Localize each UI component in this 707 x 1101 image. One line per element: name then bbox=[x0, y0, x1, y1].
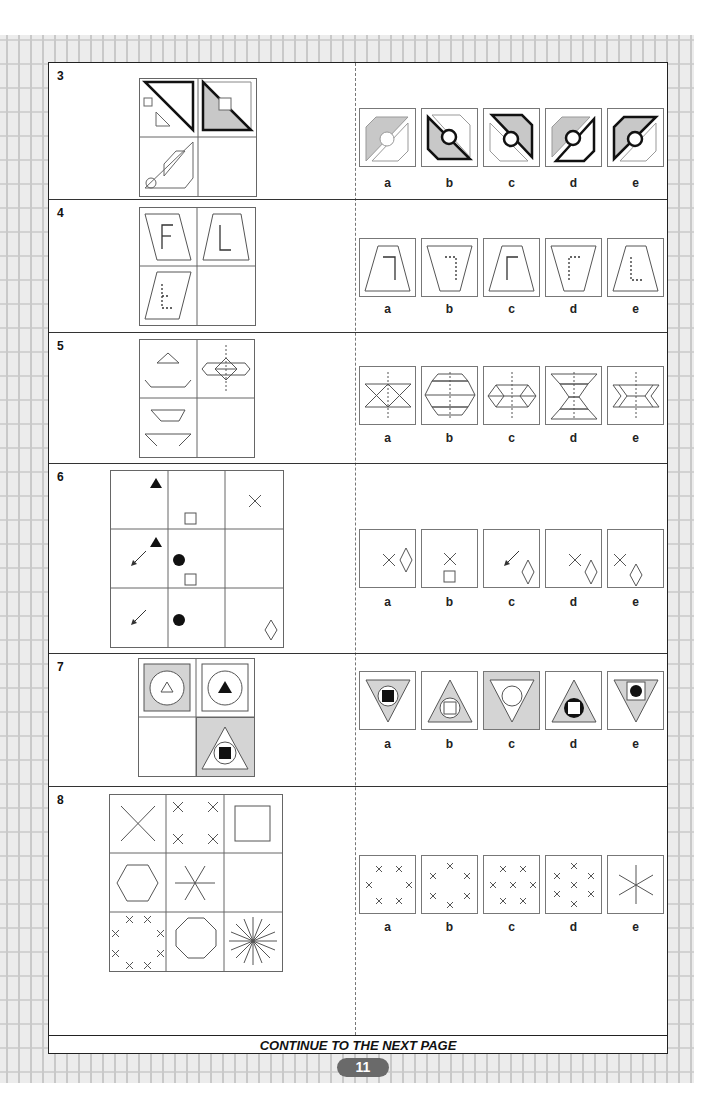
question-number: 4 bbox=[57, 206, 64, 220]
option-c[interactable] bbox=[483, 366, 540, 425]
option-a[interactable] bbox=[359, 671, 416, 730]
option-label: b bbox=[421, 737, 478, 751]
option-a[interactable] bbox=[359, 366, 416, 425]
question-matrix bbox=[139, 339, 255, 458]
question-matrix bbox=[110, 470, 284, 648]
option-label: a bbox=[359, 737, 416, 751]
option-b[interactable] bbox=[421, 855, 478, 914]
option-b[interactable] bbox=[421, 366, 478, 425]
option-label: b bbox=[421, 431, 478, 445]
option-b[interactable] bbox=[421, 671, 478, 730]
option-label: c bbox=[483, 431, 540, 445]
option-d[interactable] bbox=[545, 108, 602, 167]
option-d[interactable] bbox=[545, 238, 602, 297]
question-matrix bbox=[138, 658, 255, 777]
option-label: d bbox=[545, 302, 602, 316]
option-label: c bbox=[483, 176, 540, 190]
option-label: e bbox=[607, 737, 664, 751]
option-a[interactable] bbox=[359, 529, 416, 588]
option-label: e bbox=[607, 176, 664, 190]
option-c[interactable] bbox=[483, 855, 540, 914]
option-label: a bbox=[359, 176, 416, 190]
option-d[interactable] bbox=[545, 529, 602, 588]
option-b[interactable] bbox=[421, 238, 478, 297]
option-d[interactable] bbox=[545, 855, 602, 914]
option-label: e bbox=[607, 302, 664, 316]
question-6: 6 bbox=[49, 464, 667, 654]
question-5: 5 a b c bbox=[49, 333, 667, 464]
question-matrix bbox=[139, 78, 257, 197]
option-a[interactable] bbox=[359, 855, 416, 914]
option-c[interactable] bbox=[483, 529, 540, 588]
option-c[interactable] bbox=[483, 108, 540, 167]
option-label: e bbox=[607, 920, 664, 934]
option-e[interactable] bbox=[607, 108, 664, 167]
option-label: c bbox=[483, 595, 540, 609]
option-a[interactable] bbox=[359, 238, 416, 297]
option-label: a bbox=[359, 595, 416, 609]
question-number: 8 bbox=[57, 793, 64, 807]
option-label: b bbox=[421, 595, 478, 609]
option-d[interactable] bbox=[545, 671, 602, 730]
option-label: d bbox=[545, 431, 602, 445]
option-label: e bbox=[607, 431, 664, 445]
question-matrix bbox=[109, 794, 283, 972]
option-label: c bbox=[483, 737, 540, 751]
option-b[interactable] bbox=[421, 529, 478, 588]
question-matrix bbox=[139, 207, 256, 326]
option-label: d bbox=[545, 737, 602, 751]
option-e[interactable] bbox=[607, 238, 664, 297]
question-8: 8 a b bbox=[49, 787, 667, 1035]
continue-footer: CONTINUE TO THE NEXT PAGE bbox=[49, 1035, 667, 1055]
option-label: b bbox=[421, 920, 478, 934]
option-e[interactable] bbox=[607, 671, 664, 730]
question-number: 6 bbox=[57, 470, 64, 484]
option-label: a bbox=[359, 920, 416, 934]
option-label: c bbox=[483, 302, 540, 316]
question-7: 7 a b bbox=[49, 654, 667, 787]
page-number-badge: 11 bbox=[337, 1058, 389, 1077]
option-d[interactable] bbox=[545, 366, 602, 425]
option-label: b bbox=[421, 302, 478, 316]
option-b[interactable] bbox=[421, 108, 478, 167]
option-label: a bbox=[359, 302, 416, 316]
option-label: e bbox=[607, 595, 664, 609]
question-3: 3 bbox=[49, 63, 667, 200]
question-number: 3 bbox=[57, 69, 64, 83]
option-c[interactable] bbox=[483, 671, 540, 730]
option-e[interactable] bbox=[607, 855, 664, 914]
question-sheet: 3 bbox=[48, 62, 668, 1054]
question-number: 5 bbox=[57, 339, 64, 353]
option-label: d bbox=[545, 920, 602, 934]
question-number: 7 bbox=[57, 660, 64, 674]
option-c[interactable] bbox=[483, 238, 540, 297]
option-e[interactable] bbox=[607, 529, 664, 588]
question-4: 4 a b c d bbox=[49, 200, 667, 333]
option-label: a bbox=[359, 431, 416, 445]
option-a[interactable] bbox=[359, 108, 416, 167]
option-label: b bbox=[421, 176, 478, 190]
option-label: d bbox=[545, 176, 602, 190]
option-e[interactable] bbox=[607, 366, 664, 425]
option-label: c bbox=[483, 920, 540, 934]
option-label: d bbox=[545, 595, 602, 609]
